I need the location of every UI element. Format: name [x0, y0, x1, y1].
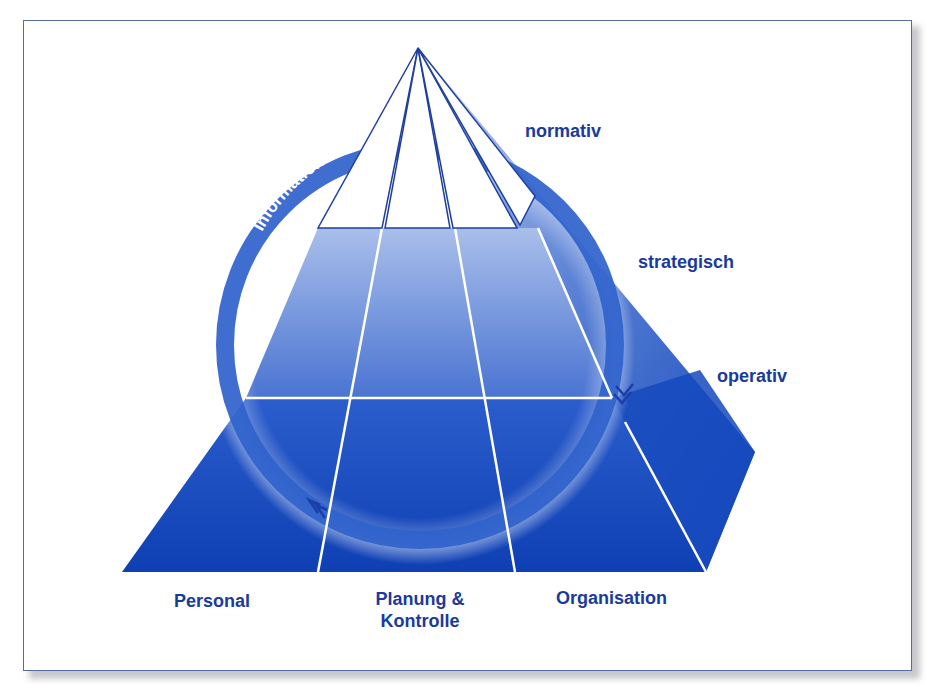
level-label-normativ: normativ — [525, 121, 601, 142]
function-label-planung-kontrolle: Planung & Kontrolle — [355, 588, 485, 632]
function-label-planung-line1: Planung & — [355, 588, 485, 610]
function-label-organisation: Organisation — [556, 588, 667, 609]
function-label-planung-line2: Kontrolle — [355, 610, 485, 632]
pyramid-apex-normativ — [318, 48, 535, 228]
level-label-operativ: operativ — [717, 366, 787, 387]
function-label-personal: Personal — [174, 591, 250, 612]
level-label-strategisch: strategisch — [638, 252, 734, 273]
